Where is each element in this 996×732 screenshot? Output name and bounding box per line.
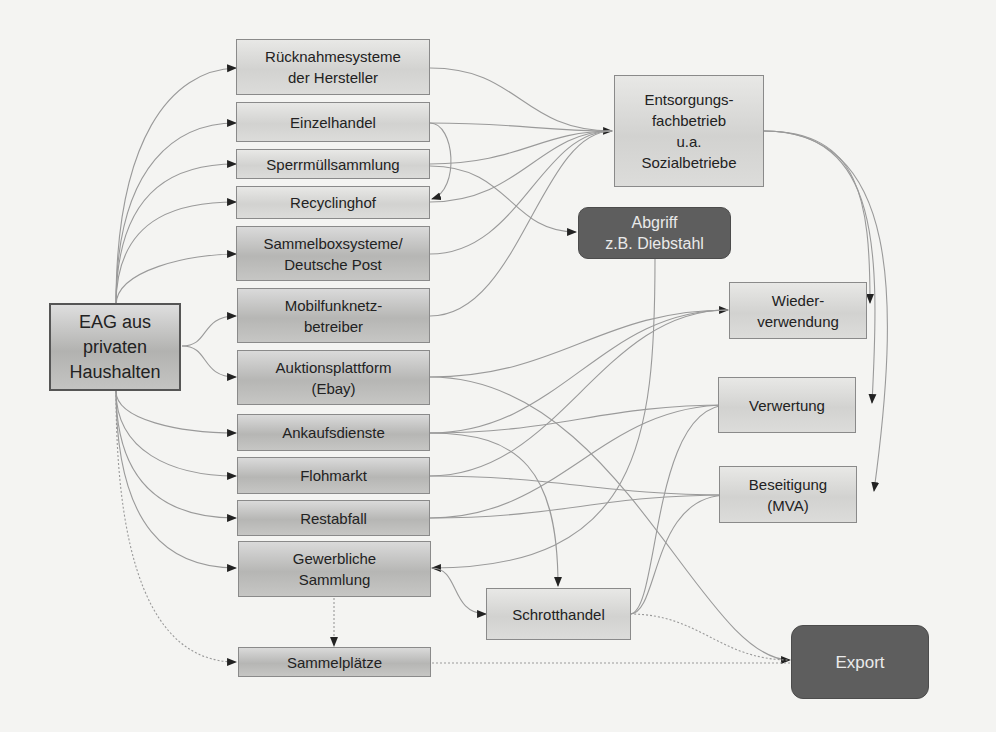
channel-recyclinghof: Recyclinghof <box>236 186 430 219</box>
channel-auktionsplattform: Auktionsplattform (Ebay) <box>237 350 430 405</box>
channel-label: Rücknahmesysteme der Hersteller <box>265 46 401 88</box>
channel-restabfall: Restabfall <box>237 500 430 536</box>
channel-sammelboxsysteme: Sammelboxsysteme/ Deutsche Post <box>236 226 430 281</box>
dest-verwertung: Verwertung <box>718 377 856 433</box>
channel-label: Restabfall <box>300 508 367 529</box>
node-schrotthandel: Schrotthandel <box>486 588 631 640</box>
channel-label: Recyclinghof <box>290 192 376 213</box>
channel-label: Gewerbliche Sammlung <box>293 548 376 590</box>
node-label: Export <box>835 652 884 673</box>
dest-beseitigung: Beseitigung (MVA) <box>719 466 857 523</box>
channel-label: Mobilfunknetz- betreiber <box>285 295 383 337</box>
channel-label: Einzelhandel <box>290 112 376 133</box>
channel-flohmarkt: Flohmarkt <box>237 457 430 494</box>
dest-export: Export <box>791 625 929 699</box>
node-label: Beseitigung (MVA) <box>749 474 827 516</box>
channel-label: Sammelplätze <box>287 652 382 673</box>
channel-label: Flohmarkt <box>300 465 367 486</box>
channel-label: Sammelboxsysteme/ Deutsche Post <box>263 233 402 275</box>
channel-sammelplaetze: Sammelplätze <box>238 647 431 677</box>
channel-ankaufsdienste: Ankaufsdienste <box>237 414 430 451</box>
node-label: Entsorgungs- fachbetrieb u.a. Sozialbetr… <box>641 89 736 173</box>
node-label: Verwertung <box>749 395 825 416</box>
channel-ruecknahmesysteme: Rücknahmesysteme der Hersteller <box>236 39 430 95</box>
source-label: EAG aus privaten Haushalten <box>69 310 160 385</box>
dest-wiederverwendung: Wieder- verwendung <box>729 282 867 339</box>
channel-label: Auktionsplattform (Ebay) <box>276 357 392 399</box>
channel-gewerbliche-sammlung: Gewerbliche Sammlung <box>238 541 431 597</box>
node-label: Wieder- verwendung <box>757 290 839 332</box>
channel-label: Sperrmüllsammlung <box>266 154 399 175</box>
node-abgriff: Abgriff z.B. Diebstahl <box>578 207 731 259</box>
channel-label: Ankaufsdienste <box>282 422 385 443</box>
flow-diagram: EAG aus privaten Haushalten Rücknahmesys… <box>0 0 996 732</box>
source-eag-private-households: EAG aus privaten Haushalten <box>49 303 181 391</box>
channel-mobilfunknetzbetreiber: Mobilfunknetz- betreiber <box>237 288 430 343</box>
node-label: Abgriff z.B. Diebstahl <box>605 212 704 254</box>
node-label: Schrotthandel <box>512 604 605 625</box>
channel-einzelhandel: Einzelhandel <box>236 102 430 142</box>
channel-sperrmuellsammlung: Sperrmüllsammlung <box>236 149 430 179</box>
node-entsorgungsfachbetrieb: Entsorgungs- fachbetrieb u.a. Sozialbetr… <box>614 75 764 187</box>
